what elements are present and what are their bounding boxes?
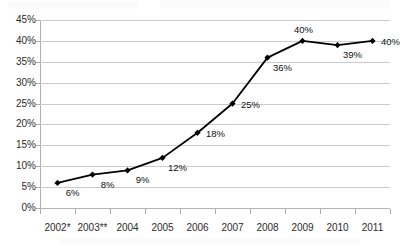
data-point-label: 8% <box>101 180 115 190</box>
y-axis-tick <box>36 145 40 146</box>
y-axis-tick <box>36 166 40 167</box>
data-point-label: 6% <box>66 188 80 198</box>
data-point-marker <box>299 38 305 44</box>
data-point-label: 18% <box>206 129 225 139</box>
data-point-marker <box>54 180 60 186</box>
y-axis-tick <box>36 187 40 188</box>
data-point-label: 12% <box>168 163 187 173</box>
series-markers <box>54 38 375 186</box>
series-line <box>58 41 373 183</box>
data-point-label: 36% <box>273 63 292 73</box>
data-point-label: 40% <box>381 37 400 47</box>
y-axis-tick <box>36 124 40 125</box>
data-point-label: 25% <box>241 100 260 110</box>
data-point-label: 9% <box>136 175 150 185</box>
y-axis-tick <box>36 41 40 42</box>
data-point-marker <box>89 171 95 177</box>
y-axis-tick <box>36 20 40 21</box>
y-axis-tick <box>36 62 40 63</box>
data-point-marker <box>369 38 375 44</box>
line-chart-figure: 0%5%10%15%20%25%30%35%40%45% 2002*2003**… <box>0 0 407 249</box>
data-point-label: 39% <box>343 50 362 60</box>
data-point-label: 40% <box>294 25 313 35</box>
y-axis-tick <box>36 83 40 84</box>
data-point-marker <box>334 42 340 48</box>
data-point-marker <box>124 167 130 173</box>
data-series <box>0 0 407 249</box>
y-axis-tick <box>36 208 40 209</box>
y-axis-tick <box>36 104 40 105</box>
